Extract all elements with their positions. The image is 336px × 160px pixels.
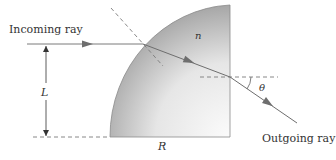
glass-quarter-disk <box>110 5 230 137</box>
height-label: L <box>40 86 48 99</box>
outgoing-ray-arrow-icon <box>262 97 275 109</box>
angle-theta-label: θ <box>259 82 265 93</box>
angle-arc <box>247 77 251 89</box>
outgoing-ray-label: Outgoing ray <box>262 132 336 145</box>
radius-label: R <box>157 140 166 153</box>
incoming-ray-label: Incoming ray <box>9 23 84 36</box>
refractive-index-label: n <box>195 30 201 41</box>
refraction-diagram: Incoming ray Outgoing ray n L R θ <box>0 0 336 160</box>
incoming-ray-arrow-icon <box>82 41 93 48</box>
